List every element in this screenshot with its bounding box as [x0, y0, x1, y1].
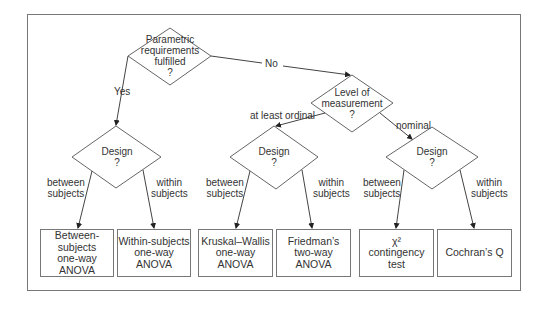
edge-label-between-1: betweensubjects	[47, 177, 85, 199]
edge-label-within-2: withinsubjects	[313, 177, 350, 199]
edge-label-within-1: withinsubjects	[151, 177, 188, 199]
edge-label-no: No	[265, 58, 278, 69]
leaf-kruskal-wallis: Kruskal–Wallis one-way ANOVA	[198, 229, 273, 277]
root-decision: Parametric requirements fulfilled ?	[128, 34, 212, 78]
edge-label-between-3: betweensubjects	[363, 177, 401, 199]
edge-label-at-least-ordinal: at least ordinal	[250, 110, 315, 121]
level-decision: Level of measurement ?	[311, 87, 393, 120]
edge-label-within-3: withinsubjects	[471, 177, 508, 199]
design-decision-nominal: Design ?	[386, 146, 478, 168]
leaf-between-subjects-anova: Between-subjects one-way ANOVA	[40, 229, 114, 277]
edge-label-yes: Yes	[114, 86, 130, 97]
design-decision-ordinal: Design ?	[230, 146, 318, 168]
leaf-chi-square: χ² contingency test	[359, 229, 434, 277]
leaf-within-subjects-anova: Within-subjects one-way ANOVA	[117, 229, 191, 277]
design-decision-parametric: Design ?	[72, 146, 162, 168]
edge-label-nominal: nominal	[396, 120, 431, 131]
leaf-friedman: Friedman’s two-way ANOVA	[276, 229, 351, 277]
leaf-cochrans-q: Cochran’s Q	[437, 229, 512, 277]
edge-label-between-2: betweensubjects	[206, 177, 244, 199]
